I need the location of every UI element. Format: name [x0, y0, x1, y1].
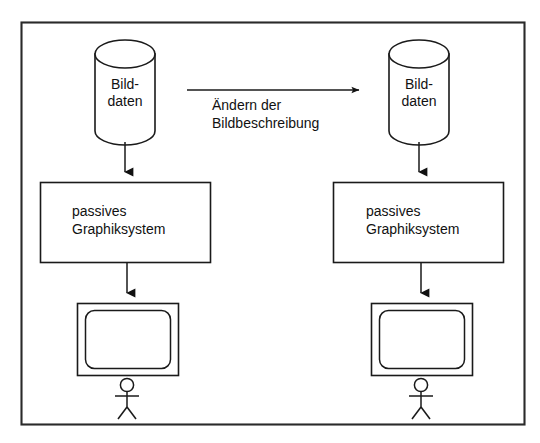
- right-process-label-line2: Graphiksystem: [366, 221, 459, 237]
- left-datastore-label-line2: daten: [107, 93, 142, 109]
- transition-label-line1: Ändern der: [212, 97, 282, 113]
- diagram-svg: Bild- daten passives Graphiksystem: [0, 0, 540, 443]
- right-process-label-line1: passives: [366, 203, 420, 219]
- left-display-monitor-icon: [78, 304, 179, 376]
- right-datastore-label-line2: daten: [401, 93, 436, 109]
- left-datastore-label-line1: Bild-: [111, 76, 139, 92]
- transition-label-line2: Bildbeschreibung: [212, 115, 319, 131]
- left-process-label-line1: passives: [72, 203, 126, 219]
- right-datastore-label-line1: Bild-: [405, 76, 433, 92]
- right-display-monitor-icon: [372, 304, 473, 376]
- left-process-label-line2: Graphiksystem: [72, 221, 165, 237]
- diagram-canvas: Bild- daten passives Graphiksystem: [0, 0, 540, 443]
